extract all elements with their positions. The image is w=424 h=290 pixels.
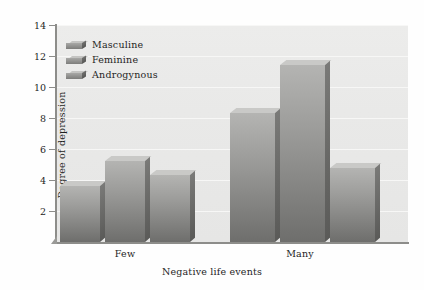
x-category-label: Few: [115, 248, 135, 259]
y-tick-mark: [49, 211, 56, 213]
bar-front-face: [230, 113, 275, 242]
y-tick-label: 14: [34, 20, 46, 31]
legend-swatch-side: [82, 70, 86, 78]
legend: MasculineFeminineAndrogynous: [66, 37, 206, 82]
legend-swatch-icon: [66, 71, 86, 79]
y-tick-mark: [49, 149, 56, 151]
legend-swatch-icon: [66, 41, 86, 49]
bar-front-face: [330, 168, 375, 242]
y-tick-mark: [49, 25, 56, 27]
legend-label: Feminine: [92, 54, 138, 65]
bar-chart-figure: 2468101214 Degree of depression Masculin…: [0, 0, 424, 290]
bar-side-face: [375, 163, 380, 242]
y-tick-label: 10: [34, 82, 46, 93]
legend-swatch-side: [82, 40, 86, 48]
x-axis-title: Negative life events: [0, 266, 424, 277]
legend-swatch-icon: [66, 56, 86, 64]
bar: [105, 161, 145, 242]
legend-item: Masculine: [66, 37, 206, 52]
bar-front-face: [150, 175, 190, 242]
legend-label: Masculine: [92, 39, 143, 50]
bar: [150, 175, 190, 242]
bar-front-face: [105, 161, 145, 242]
y-tick-label: 2: [40, 206, 46, 217]
bar-front-face: [280, 65, 325, 242]
legend-swatch-face: [66, 58, 82, 64]
gridline: [56, 87, 408, 88]
legend-item: Feminine: [66, 52, 206, 67]
y-tick-label: 4: [40, 175, 46, 186]
legend-swatch-face: [66, 73, 82, 79]
legend-swatch-face: [66, 43, 82, 49]
y-tick-mark: [49, 118, 56, 120]
bar: [230, 113, 275, 242]
y-tick-label: 12: [34, 51, 46, 62]
legend-item: Androgynous: [66, 67, 206, 82]
bar-front-face: [60, 186, 100, 242]
y-tick-label: 6: [40, 144, 46, 155]
gridline: [56, 25, 408, 26]
y-tick-label: 8: [40, 113, 46, 124]
x-axis-line: [55, 242, 409, 244]
bar: [330, 168, 375, 242]
bar: [60, 186, 100, 242]
x-category-label: Many: [286, 248, 314, 259]
legend-swatch-side: [82, 55, 86, 63]
y-tick-mark: [49, 56, 56, 58]
y-tick-mark: [49, 87, 56, 89]
legend-label: Androgynous: [92, 69, 158, 80]
bar: [280, 65, 325, 242]
bar-side-face: [190, 171, 195, 242]
y-tick-mark: [49, 180, 56, 182]
axis-origin-foot: [51, 236, 57, 244]
